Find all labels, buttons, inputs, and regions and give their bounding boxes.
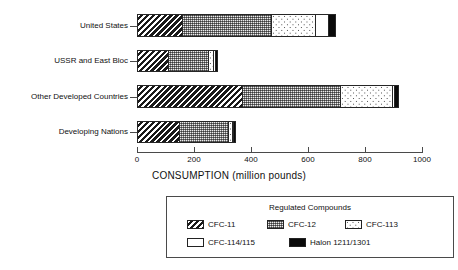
legend-label-cfc-12: CFC-12 <box>288 220 316 229</box>
bar-developing-nations <box>137 121 236 143</box>
x-tick-label-0: 0 <box>117 155 157 164</box>
legend: Regulated Compounds CFC-11 CFC-12 CFC-11… <box>166 196 454 258</box>
category-label-text: United States <box>80 21 128 31</box>
bar-segment-cfc-11 <box>137 14 183 37</box>
bar-segment-cfc-12 <box>243 85 341 108</box>
legend-swatch-cfc-11-icon <box>187 220 204 229</box>
category-label-text: Developing Nations <box>59 127 128 137</box>
bar-segment-cfc-12 <box>183 14 272 37</box>
bar-segment-halon-1211-1301 <box>329 14 336 37</box>
bar-segment-cfc-12 <box>180 121 229 143</box>
bar-segment-cfc-113 <box>341 85 393 108</box>
category-tick-0 <box>130 26 137 27</box>
x-axis-title: CONSUMPTION (million pounds) <box>0 170 458 181</box>
legend-title: Regulated Compounds <box>167 203 453 212</box>
legend-label-cfc-114-115: CFC-114/115 <box>208 238 255 247</box>
category-tick-2 <box>130 97 137 98</box>
x-tick-label-200: 200 <box>174 155 214 164</box>
x-tick-label-400: 400 <box>231 155 271 164</box>
x-tick-800 <box>365 147 366 153</box>
legend-label-halon-1211-1301: Halon 1211/1301 <box>310 238 370 247</box>
bar-segment-cfc-114-115 <box>316 14 329 37</box>
legend-entry-cfc-113: CFC-113 <box>345 220 398 229</box>
bar-segment-halon-1211-1301 <box>216 50 217 72</box>
legend-entry-halon-1211-1301: Halon 1211/1301 <box>289 238 370 247</box>
legend-label-cfc-113: CFC-113 <box>366 220 398 229</box>
stacked-bar-chart-figure: United States USSR and East Bloc Other D… <box>0 0 458 270</box>
legend-entry-cfc-114-115: CFC-114/115 <box>187 238 255 247</box>
x-tick-label-600: 600 <box>288 155 328 164</box>
bar-segment-halon-1211-1301 <box>395 85 399 108</box>
category-tick-1 <box>130 61 137 62</box>
legend-swatch-cfc-12-icon <box>267 220 284 229</box>
bar-segment-cfc-113 <box>272 14 316 37</box>
legend-swatch-cfc-113-icon <box>345 220 362 229</box>
bar-segment-cfc-11 <box>137 85 243 108</box>
x-tick-label-1000: 1000 <box>402 155 442 164</box>
x-tick-1000 <box>422 147 423 153</box>
x-tick-label-800: 800 <box>345 155 385 164</box>
bar-segment-cfc-12 <box>169 50 210 72</box>
x-tick-600 <box>308 147 309 153</box>
x-tick-0 <box>137 147 138 153</box>
category-tick-3 <box>130 132 137 133</box>
category-label-text: Other Developed Countries <box>31 92 128 102</box>
legend-entry-cfc-11: CFC-11 <box>187 220 235 229</box>
legend-swatch-cfc-114-115-icon <box>187 238 204 247</box>
legend-entry-cfc-12: CFC-12 <box>267 220 316 229</box>
legend-swatch-halon-1211-1301-icon <box>289 238 306 247</box>
bar-segment-cfc-11 <box>137 121 180 143</box>
bar-other-developed-countries <box>137 85 399 108</box>
legend-label-cfc-11: CFC-11 <box>208 220 235 229</box>
bar-segment-cfc-11 <box>137 50 169 72</box>
bar-ussr-and-east-bloc <box>137 50 218 72</box>
bar-segment-halon-1211-1301 <box>234 121 236 143</box>
x-axis-line <box>137 152 423 153</box>
x-tick-200 <box>194 147 195 153</box>
category-label-text: USSR and East Bloc <box>54 56 128 66</box>
bar-united-states <box>137 14 336 37</box>
x-tick-400 <box>251 147 252 153</box>
